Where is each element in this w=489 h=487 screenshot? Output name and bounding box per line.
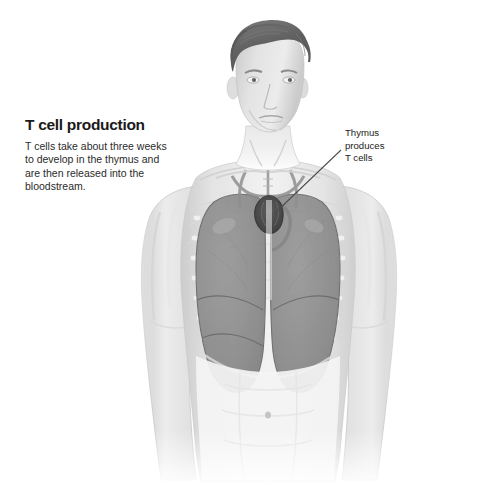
human-figure [120, 20, 418, 487]
head [227, 20, 310, 132]
page-title: T cell production [25, 116, 180, 134]
neck [236, 126, 300, 170]
caption-block: T cell production T cells take about thr… [25, 116, 180, 194]
thymus-annotation: Thymus produces T cells [345, 127, 384, 165]
illustration-page: T cell production T cells take about thr… [0, 0, 489, 487]
anatomy-illustration [0, 0, 489, 487]
sternum [266, 200, 272, 300]
navel [265, 411, 271, 418]
caption-body-text: T cells take about three weeks to develo… [25, 140, 177, 194]
annotation-line-3: T cells [345, 152, 384, 165]
annotation-line-2: produces [345, 140, 384, 153]
annotation-line-1: Thymus [345, 127, 384, 140]
